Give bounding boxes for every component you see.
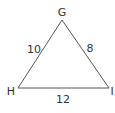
vertex-label-g: G bbox=[58, 6, 67, 19]
vertex-label-i: I bbox=[110, 85, 113, 98]
triangle-diagram: G H I 10 8 12 bbox=[0, 0, 115, 113]
side-label-gh: 10 bbox=[27, 43, 41, 56]
vertex-label-h: H bbox=[7, 85, 15, 98]
side-label-hi: 12 bbox=[56, 93, 70, 106]
side-label-gi: 8 bbox=[87, 42, 94, 55]
